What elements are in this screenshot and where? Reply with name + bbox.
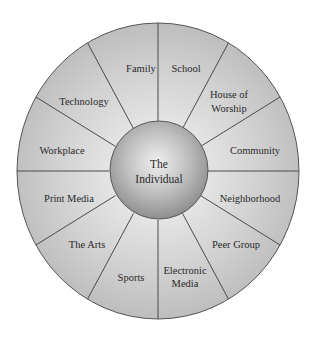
segment-label-electronic-media-line2: Media: [172, 278, 199, 289]
segment-label-print-media: Print Media: [44, 193, 94, 204]
segment-label-technology: Technology: [59, 96, 109, 107]
segment-label-workplace: Workplace: [39, 145, 85, 156]
center-label-line1: The: [150, 158, 168, 170]
segment-label-the-arts: The Arts: [69, 239, 105, 250]
center-sphere: [110, 121, 208, 219]
segment-label-community: Community: [230, 145, 281, 156]
segment-label-family: Family: [126, 63, 157, 74]
segment-label-house-of-worship-line2: Worship: [211, 103, 246, 114]
segment-label-neighborhood: Neighborhood: [220, 193, 281, 204]
segment-label-house-of-worship-line1: House of: [210, 89, 249, 100]
influence-wheel-diagram: The Individual Family School House of Wo…: [0, 0, 316, 339]
segment-label-school: School: [171, 63, 200, 74]
segment-label-electronic-media-line1: Electronic: [163, 265, 206, 276]
segment-label-peer-group: Peer Group: [212, 239, 260, 250]
segment-label-sports: Sports: [118, 272, 145, 283]
center-label-line2: Individual: [135, 173, 182, 185]
